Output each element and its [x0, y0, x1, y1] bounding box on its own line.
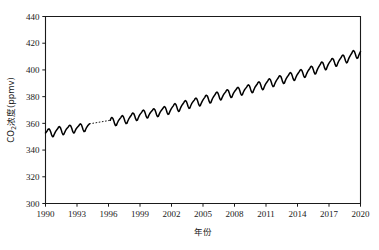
y-tick-label-400: 400 [26, 65, 40, 75]
chart-figure: 300320340360380400420440 199019931996199… [0, 0, 379, 250]
co2-concentration-line-chart: 300320340360380400420440 199019931996199… [0, 0, 379, 250]
x-tick-label-2005: 2005 [194, 209, 213, 219]
y-tick-label-420: 420 [26, 38, 40, 48]
x-tick-label-1993: 1993 [68, 209, 87, 219]
x-tick-label-2008: 2008 [226, 209, 245, 219]
x-tick-label-1996: 1996 [100, 209, 119, 219]
x-tick-label-1990: 1990 [37, 209, 56, 219]
x-tick-label-2020: 2020 [352, 209, 371, 219]
x-tick-label-2014: 2014 [289, 209, 308, 219]
x-tick-label-2002: 2002 [163, 209, 181, 219]
y-tick-label-380: 380 [26, 92, 40, 102]
x-tick-label-1999: 1999 [131, 209, 150, 219]
x-tick-label-2017: 2017 [320, 209, 339, 219]
x-tick-label-2011: 2011 [257, 209, 275, 219]
y-tick-label-440: 440 [26, 12, 40, 22]
y-tick-label-320: 320 [26, 172, 40, 182]
x-axis-title: 年份 [194, 227, 212, 237]
y-tick-label-340: 340 [26, 145, 40, 155]
y-tick-label-300: 300 [26, 199, 40, 209]
y-tick-label-360: 360 [26, 119, 40, 129]
